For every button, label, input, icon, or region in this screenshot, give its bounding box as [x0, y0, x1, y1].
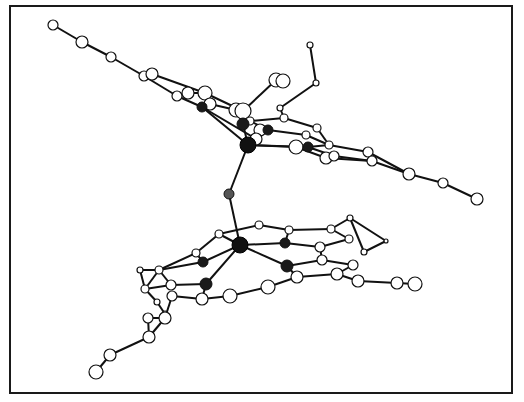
atom-open: [277, 105, 283, 111]
bond: [219, 225, 259, 234]
atom-open: [327, 225, 335, 233]
atom-open: [313, 124, 321, 132]
atom-open: [223, 289, 237, 303]
atom-metal: [232, 237, 248, 253]
atom-open: [215, 230, 223, 238]
atom-open: [347, 215, 353, 221]
atom-open: [367, 156, 377, 166]
bond: [250, 118, 284, 121]
atom-open: [352, 275, 364, 287]
atom-donor: [197, 102, 207, 112]
atom-open: [192, 249, 200, 257]
atom-open: [302, 131, 310, 139]
atom-open: [291, 271, 303, 283]
bond: [152, 74, 205, 93]
atom-open: [317, 255, 327, 265]
atom-open: [106, 52, 116, 62]
atom-open: [137, 267, 143, 273]
atom-open: [471, 193, 483, 205]
atom-open: [159, 312, 171, 324]
atom-open: [285, 226, 293, 234]
atom-donor: [303, 142, 313, 152]
bond: [284, 118, 317, 128]
atom-open: [141, 285, 149, 293]
bond: [111, 57, 144, 76]
atom-donor: [237, 118, 249, 130]
atom-open: [255, 221, 263, 229]
atom-open: [143, 313, 153, 323]
bond: [268, 130, 306, 135]
atom-open: [307, 42, 313, 48]
atom-open: [313, 80, 319, 86]
atom-open: [48, 20, 58, 30]
atom-open: [89, 365, 103, 379]
atom-open: [172, 91, 182, 101]
atom-bridge: [224, 189, 234, 199]
bond: [289, 229, 331, 230]
atom-open: [345, 235, 353, 243]
atom-open: [167, 291, 177, 301]
atom-open: [276, 74, 290, 88]
molecular-structure-diagram: [0, 0, 524, 402]
atom-open: [325, 141, 333, 149]
atom-open: [146, 68, 158, 80]
bond: [310, 45, 316, 83]
atom-open: [143, 331, 155, 343]
atom-open: [166, 280, 176, 290]
atoms-layer: [48, 20, 483, 379]
atom-open: [315, 242, 325, 252]
atom-open: [331, 268, 343, 280]
atom-open: [155, 266, 163, 274]
atom-open: [384, 239, 388, 243]
atom-open: [329, 151, 339, 161]
atom-open: [391, 277, 403, 289]
atom-donor: [281, 260, 293, 272]
atom-open: [289, 140, 303, 154]
atom-donor: [263, 125, 273, 135]
atom-open: [76, 36, 88, 48]
atom-open: [261, 280, 275, 294]
atom-open: [348, 260, 358, 270]
atom-open: [235, 103, 251, 119]
bonds-layer: [53, 25, 477, 372]
atom-donor: [280, 238, 290, 248]
atom-open: [104, 349, 116, 361]
atom-open: [280, 114, 288, 122]
atom-open: [154, 299, 160, 305]
atom-open: [438, 178, 448, 188]
atom-open: [408, 277, 422, 291]
atom-donor: [198, 257, 208, 267]
atom-donor: [200, 278, 212, 290]
atom-open: [403, 168, 415, 180]
atom-open: [196, 293, 208, 305]
atom-open: [182, 87, 194, 99]
atom-metal: [240, 137, 256, 153]
atom-open: [361, 249, 367, 255]
bond: [364, 241, 386, 252]
